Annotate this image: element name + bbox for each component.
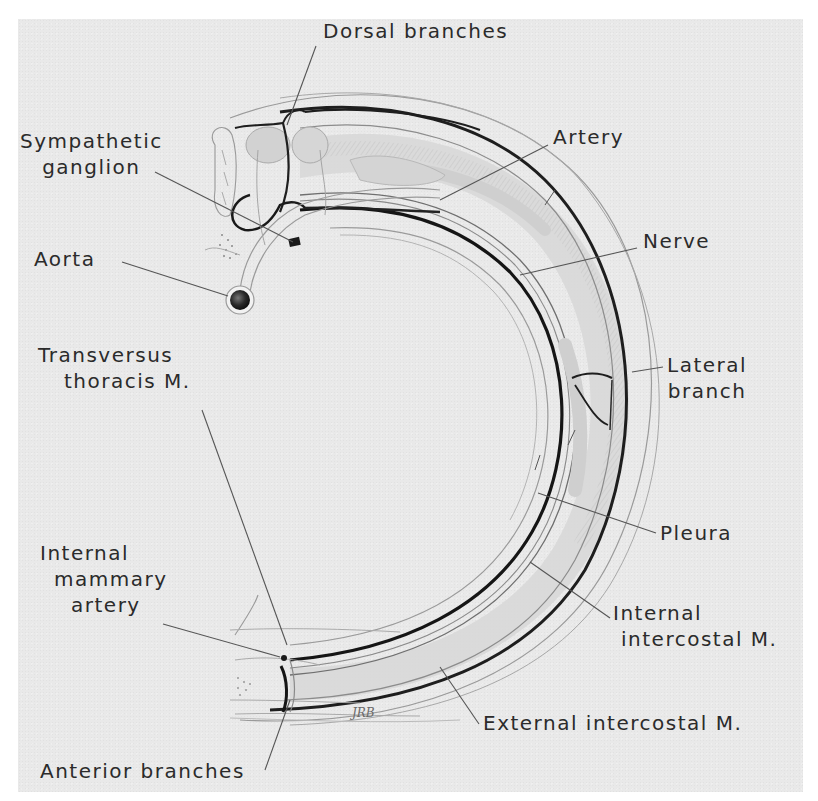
label-internal-mammary-line1: Internal bbox=[40, 540, 168, 566]
label-internal-intercostal-line1: Internal bbox=[613, 600, 777, 626]
label-artery: Artery bbox=[553, 124, 624, 150]
pleura-line bbox=[290, 228, 548, 645]
label-aorta: Aorta bbox=[34, 246, 95, 272]
dotted-area bbox=[219, 234, 237, 259]
label-sympathetic-ganglion: Sympathetic ganglion bbox=[20, 128, 163, 180]
label-transversus-thoracis: Transversus thoracis M. bbox=[38, 342, 191, 394]
label-lateral-branch: Lateral branch bbox=[667, 352, 747, 404]
label-nerve: Nerve bbox=[643, 228, 710, 254]
skin-outline bbox=[230, 95, 651, 721]
dotted-area-sternum bbox=[237, 677, 251, 696]
label-transversus-thoracis-line1: Transversus bbox=[38, 342, 191, 368]
label-internal-mammary-line2: mammary bbox=[40, 566, 168, 592]
label-internal-mammary-line3: artery bbox=[40, 592, 168, 618]
label-internal-mammary-artery: Internal mammary artery bbox=[40, 540, 168, 618]
label-external-intercostal: External intercostal M. bbox=[483, 710, 742, 736]
label-transversus-thoracis-line2: thoracis M. bbox=[38, 368, 191, 394]
label-internal-intercostal: Internal intercostal M. bbox=[613, 600, 777, 652]
label-sympathetic-ganglion-line1: Sympathetic bbox=[20, 128, 163, 154]
label-lateral-branch-line1: Lateral bbox=[667, 352, 747, 378]
leader-transversus-thoracis bbox=[202, 410, 287, 645]
anterior-branch bbox=[281, 666, 287, 712]
leader-aorta bbox=[122, 262, 228, 296]
leader-lateral-branch bbox=[632, 367, 663, 372]
label-pleura: Pleura bbox=[660, 520, 732, 546]
label-dorsal-branches: Dorsal branches bbox=[323, 18, 508, 44]
ganglion-node bbox=[288, 237, 300, 247]
label-sympathetic-ganglion-line2: ganglion bbox=[20, 154, 163, 180]
label-internal-intercostal-line2: intercostal M. bbox=[613, 626, 777, 652]
leader-external-intercostal bbox=[440, 667, 479, 724]
leader-sympathetic-ganglion bbox=[155, 172, 293, 242]
label-anterior-branches: Anterior branches bbox=[40, 758, 245, 784]
internal-mammary-vessel bbox=[281, 655, 287, 661]
artist-signature: JRB bbox=[352, 706, 375, 720]
label-lateral-branch-line2: branch bbox=[667, 378, 747, 404]
leader-dorsal-branches bbox=[287, 46, 316, 125]
sympathetic-ganglion-loop bbox=[232, 195, 305, 230]
thoracic-wall bbox=[230, 93, 659, 725]
